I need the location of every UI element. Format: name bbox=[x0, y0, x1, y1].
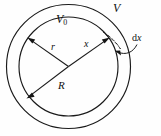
radius-r-line bbox=[30, 39, 69, 66]
diagram-canvas: V0 V r x R dx bbox=[0, 0, 161, 136]
label-radius-R: R bbox=[58, 80, 65, 91]
diagram-svg bbox=[0, 0, 161, 136]
label-outer-region-V: V bbox=[113, 2, 120, 14]
label-differential-dx: dx bbox=[132, 33, 141, 43]
label-inner-region-V0: V0 bbox=[56, 13, 67, 25]
label-radius-x: x bbox=[84, 39, 88, 49]
label-V0-subscript: 0 bbox=[63, 18, 67, 27]
label-dx-variable: x bbox=[137, 32, 141, 43]
label-radius-r: r bbox=[51, 42, 55, 52]
